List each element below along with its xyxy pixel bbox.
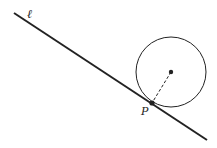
radius-segment	[152, 72, 171, 103]
tangent-point	[149, 100, 154, 105]
line-l	[14, 13, 207, 140]
point-label: P	[140, 105, 149, 118]
line-label: ℓ	[27, 7, 32, 21]
tangent-diagram: ℓ P	[0, 0, 217, 148]
center-point	[169, 70, 173, 74]
